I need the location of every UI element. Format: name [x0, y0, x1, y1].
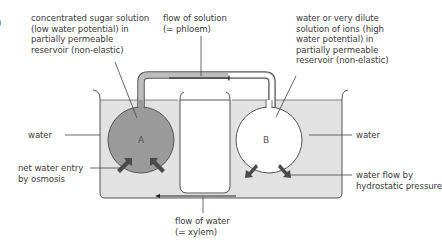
central-partition	[180, 100, 230, 193]
bulb-a-label: A	[138, 135, 145, 145]
label-reservoir-b: water or very dilute solution of ions (h…	[296, 13, 388, 66]
label-hydrostatic-pressure: water flow by hydrostatic pressure	[356, 170, 442, 191]
label-xylem-flow: flow of water (= xylem)	[175, 216, 230, 237]
label-reservoir-a: concentrated sugar solution (low water p…	[31, 13, 149, 55]
label-net-water-entry: net water entry by osmosis	[18, 163, 83, 184]
label-water-left: water	[28, 130, 52, 141]
edge-fragment: )	[0, 18, 1, 29]
bulb-b-label: B	[263, 135, 269, 145]
label-phloem-flow: flow of solution (= phloem)	[163, 13, 227, 34]
label-water-right: water	[356, 130, 380, 141]
